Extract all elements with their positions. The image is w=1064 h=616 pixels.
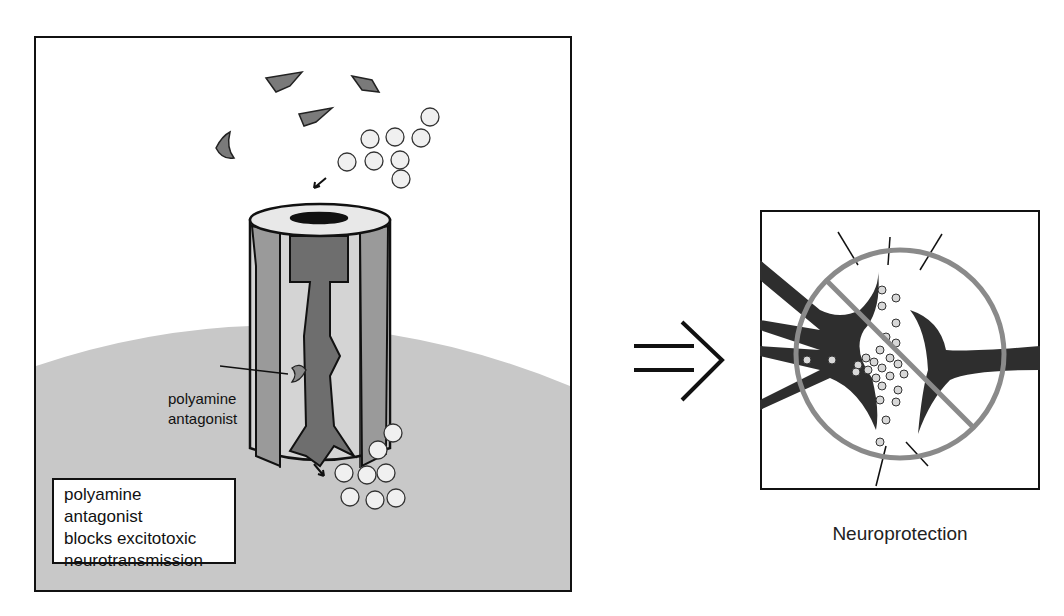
neuroprotection-panel [760, 210, 1040, 490]
polyamine-antagonist-label: polyamine antagonist [168, 389, 237, 429]
nmda-receptor-channel [250, 204, 390, 468]
implies-arrow-icon [630, 318, 730, 418]
neuroprotection-caption: Neuroprotection [740, 523, 1060, 545]
explanation-box: polyamine antagonist blocks excitotoxic … [52, 478, 236, 564]
